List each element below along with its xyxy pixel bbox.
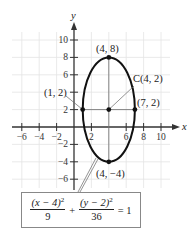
x-term-numerator: (x − 4) bbox=[31, 197, 60, 208]
x-axis-label: x bbox=[181, 121, 187, 132]
label-left-co-vertex: (1, 2) bbox=[44, 87, 67, 99]
x-tick-label: 10 bbox=[156, 132, 166, 142]
y-tick-label: 8 bbox=[63, 52, 68, 62]
vertex-top-point bbox=[106, 55, 111, 60]
y-tick-label: −2 bbox=[58, 139, 68, 149]
y-tick-label: 10 bbox=[59, 35, 69, 45]
y-tick-label: 6 bbox=[63, 70, 68, 80]
leader-line-center bbox=[109, 86, 134, 110]
equation-box: (x − 4)2 9 + (y − 2)2 36 = 1 bbox=[21, 192, 141, 228]
label-bottom-vertex: (4, −4) bbox=[96, 168, 125, 180]
plus-sign: + bbox=[69, 205, 75, 216]
x-tick-label: 2 bbox=[89, 132, 94, 142]
x-term-denominator: 9 bbox=[45, 210, 50, 223]
x-axis-arrow-icon bbox=[172, 124, 180, 130]
x-tick-label: 6 bbox=[124, 132, 129, 142]
y-axis-label: y bbox=[70, 10, 76, 21]
y-tick-label: −4 bbox=[58, 157, 68, 167]
label-center: C(4, 2) bbox=[133, 73, 163, 85]
x-tick-label: −4 bbox=[34, 132, 44, 142]
y-axis-arrow-icon bbox=[71, 22, 77, 30]
fraction-y-term: (y − 2)2 36 bbox=[79, 197, 114, 223]
vertex-bottom-point bbox=[106, 159, 111, 164]
x-tick-label: 8 bbox=[141, 132, 146, 142]
y-tick-label: −6 bbox=[58, 174, 68, 184]
y-term-denominator: 36 bbox=[91, 210, 102, 223]
y-term-numerator: (y − 2) bbox=[80, 197, 109, 208]
x-tick-label: −6 bbox=[17, 132, 27, 142]
leader-line-equation-1 bbox=[78, 158, 96, 192]
label-top-vertex: (4, 8) bbox=[96, 43, 119, 55]
label-right-co-vertex: (7, 2) bbox=[137, 97, 160, 109]
co-vertex-left-point bbox=[80, 107, 85, 112]
center-point bbox=[106, 107, 111, 112]
equation-rhs: = 1 bbox=[118, 205, 132, 216]
y-tick-label: 2 bbox=[63, 105, 68, 115]
fraction-x-term: (x − 4)2 9 bbox=[30, 197, 65, 223]
